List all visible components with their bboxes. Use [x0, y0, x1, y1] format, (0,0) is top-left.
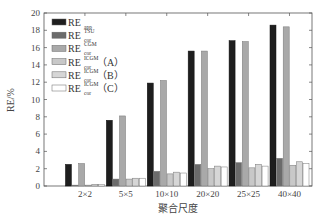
x-tick-label: 10×10 [155, 189, 179, 199]
bar [85, 185, 91, 186]
x-axis-title: 聚合尺度 [158, 202, 198, 214]
bar [98, 184, 104, 186]
legend-entry: REcorICGM（C） [68, 81, 124, 96]
bar [92, 184, 98, 186]
bar [215, 166, 221, 186]
legend-label-base: RE [68, 57, 81, 68]
x-tick-label: 5×5 [119, 189, 134, 199]
bar [208, 169, 214, 186]
legend-label-base: RE [68, 17, 81, 28]
legend-swatch [52, 32, 66, 38]
legend-label-base: RE [68, 30, 81, 41]
y-tick-label: 10 [31, 95, 41, 105]
y-tick-label: 16 [31, 43, 41, 53]
bar [106, 120, 112, 186]
legend-label-base: RE [68, 83, 81, 94]
legend: REappREcorTSUREcorCGMREcorICGM（A）REcorIC… [52, 17, 124, 96]
legend-swatch [52, 72, 66, 78]
bar [113, 179, 119, 186]
bar [242, 42, 248, 186]
bar [277, 158, 283, 186]
legend-label-suffix: （C） [97, 83, 124, 94]
y-tick-label: 2 [36, 164, 41, 174]
bar [262, 166, 268, 186]
y-tick-label: 12 [31, 77, 40, 87]
bar [195, 164, 201, 186]
bar [201, 51, 207, 186]
bar [229, 41, 235, 186]
legend-label-suffix: （B） [97, 70, 124, 81]
bar [79, 164, 85, 186]
bars [65, 25, 309, 186]
bar [139, 178, 145, 186]
bar [221, 167, 227, 186]
bar [167, 174, 173, 186]
legend-swatch [52, 85, 66, 91]
legend-swatch [52, 19, 66, 25]
y-axis-title: RE/% [5, 88, 16, 112]
y-tick-label: 14 [31, 60, 41, 70]
legend-swatch [52, 45, 66, 51]
legend-label-sub: cor [84, 90, 91, 96]
bar [120, 116, 126, 186]
bar [236, 163, 242, 186]
legend-label-suffix: （A） [97, 57, 124, 68]
bar [160, 80, 166, 186]
bar [296, 162, 302, 186]
bar [249, 168, 255, 186]
legend-label-sup: TSU [84, 28, 94, 34]
x-tick-label: 25×25 [237, 189, 261, 199]
bar [303, 164, 309, 186]
bar [174, 172, 180, 186]
bar [283, 27, 289, 186]
bar [72, 185, 78, 186]
bar [65, 164, 71, 186]
y-tick-label: 0 [36, 181, 41, 191]
x-tick-label: 20×20 [196, 189, 220, 199]
x-tick-label: 40×40 [278, 189, 302, 199]
y-tick-label: 6 [36, 129, 41, 139]
bar [147, 83, 153, 186]
y-tick-label: 20 [31, 8, 41, 18]
bar [126, 179, 132, 186]
bar [154, 171, 160, 186]
x-tick-label: 2×2 [78, 189, 92, 199]
bar [255, 164, 261, 186]
legend-label-sup: CGM [84, 41, 97, 47]
bar [133, 178, 139, 186]
bar [270, 25, 276, 186]
legend-label-base: RE [68, 43, 81, 54]
bar [180, 173, 186, 186]
y-tick-label: 4 [36, 146, 41, 156]
bar [188, 51, 194, 186]
y-tick-label: 18 [31, 25, 41, 35]
legend-swatch [52, 59, 66, 65]
bar-chart: 024681012141618202×25×510×1020×2025×2540… [0, 0, 319, 217]
y-tick-label: 8 [36, 112, 41, 122]
bar [290, 165, 296, 186]
legend-label-base: RE [68, 70, 81, 81]
